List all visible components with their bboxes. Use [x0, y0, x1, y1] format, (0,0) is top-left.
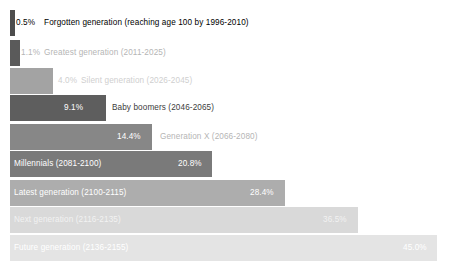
- bar-category-label: Generation X (2066-2080): [160, 133, 258, 141]
- bar-label-group: 1.1% Greatest generation (2011-2025): [21, 40, 166, 66]
- bar-row: Future generation (2136-2155) 45.0%: [0, 235, 452, 261]
- bar-row: 1.1% Greatest generation (2011-2025): [0, 40, 452, 66]
- bar-category-label: Forgotten generation (reaching age 100 b…: [44, 19, 249, 27]
- bar-row: 4.0% Silent generation (2026-2045): [0, 68, 452, 94]
- bar-value-label: 0.5%: [16, 19, 35, 27]
- bar-value-label: 1.1%: [21, 49, 40, 57]
- bar-row: 14.4% Generation X (2066-2080): [0, 124, 452, 150]
- bar-row: Millennials (2081-2100) 20.8%: [0, 151, 452, 177]
- bar-category-label: Silent generation (2026-2045): [81, 77, 192, 85]
- bar-rect: [10, 40, 20, 66]
- bar-row: 9.1% Baby boomers (2046-2065): [0, 95, 452, 121]
- bar-rect: [10, 124, 152, 150]
- bar-rect: [10, 235, 437, 261]
- bar-row: Next generation (2116-2135) 36.5%: [0, 207, 452, 233]
- bar-row: 0.5% Forgotten generation (reaching age …: [0, 10, 452, 36]
- bar-rect: [10, 151, 212, 177]
- bar-rect: [10, 180, 285, 206]
- bar-row: Latest generation (2100-2115) 28.4%: [0, 180, 452, 206]
- bar-rect: [10, 95, 106, 121]
- bar-rect: [10, 10, 15, 36]
- horizontal-bar-chart: 0.5% Forgotten generation (reaching age …: [0, 0, 452, 267]
- bar-value-label: 4.0%: [58, 77, 77, 85]
- bar-label-group: 4.0% Silent generation (2026-2045): [58, 68, 192, 94]
- bar-category-label: Greatest generation (2011-2025): [44, 49, 166, 57]
- bar-category-label: Baby boomers (2046-2065): [112, 104, 214, 112]
- bar-rect: [10, 207, 358, 233]
- chart-plot-area: 0.5% Forgotten generation (reaching age …: [0, 0, 452, 267]
- bar-label-group: 0.5% Forgotten generation (reaching age …: [16, 10, 249, 36]
- bar-rect: [10, 68, 53, 94]
